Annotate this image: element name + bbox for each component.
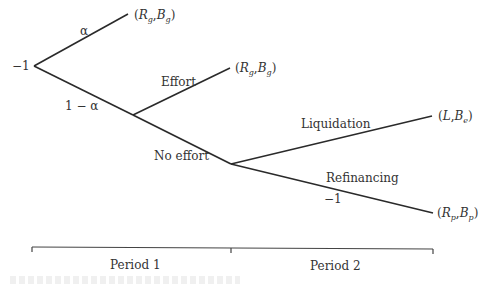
payoff-refinancing: (Rp,Bp) [437, 206, 478, 220]
liquidation-label: Liquidation [301, 117, 371, 131]
refinancing-cost-label: −1 [324, 192, 342, 206]
one-minus-alpha-label: 1 − α [65, 99, 98, 113]
root-value-label: −1 [12, 59, 30, 73]
alpha-label: α [80, 24, 88, 38]
decision-tree-diagram [0, 0, 489, 284]
payoff-good: (Rg,Bg) [134, 8, 175, 22]
payoff-liquidation: (L,Be) [438, 109, 473, 123]
effort-label: Effort [161, 75, 196, 89]
period-2-label: Period 2 [310, 259, 361, 273]
payoff-effort: (Rg,Bg) [235, 61, 276, 75]
cropped-caption [10, 276, 240, 284]
refinancing-label: Refinancing [326, 171, 399, 185]
period-1-label: Period 1 [110, 258, 161, 272]
timeline-axis [32, 247, 433, 254]
edge-alpha [34, 14, 128, 66]
no-effort-label: No effort [154, 149, 209, 163]
